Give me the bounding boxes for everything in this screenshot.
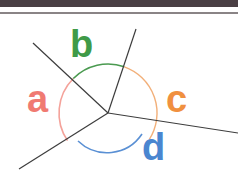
arc-a [59,79,73,141]
arc-d [78,134,142,153]
angle-label-b: b [70,25,93,63]
arc-b [73,64,124,78]
angle-label-d: d [142,128,165,166]
ray-lower-left [19,113,108,169]
angle-label-c: c [166,80,187,118]
ray-upper [108,29,136,113]
angle-label-a: a [27,80,48,118]
